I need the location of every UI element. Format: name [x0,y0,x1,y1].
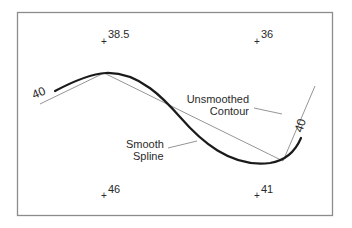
diagram-frame [18,13,333,216]
smooth-callout-line2: Spline [133,150,164,162]
contour-label-left: 40 [30,84,48,102]
plus-marker-icon: + [101,190,107,201]
smooth-leader-line [168,141,197,148]
spot-height-38-5: + 38.5 [101,28,129,47]
plus-marker-icon: + [101,36,107,47]
unsmoothed-callout-line1: Unsmoothed [187,93,249,105]
spot-height-value: 36 [261,28,273,40]
smooth-spline-curve [55,73,301,164]
unsmoothed-contour-line [40,73,315,161]
unsmoothed-callout-line2: Contour [210,105,249,117]
plus-marker-icon: + [254,190,260,201]
spot-height-value: 46 [108,183,120,195]
spot-height-46: + 46 [101,183,120,201]
spot-height-36: + 36 [254,28,273,47]
contour-diagram: 40 40 Unsmoothed Contour Smooth Spline +… [0,0,352,228]
smooth-callout-line1: Smooth [126,138,164,150]
spot-height-41: + 41 [254,183,273,201]
spot-height-value: 41 [261,183,273,195]
plus-marker-icon: + [254,36,260,47]
contour-label-right: 40 [292,117,310,134]
unsmoothed-leader-line [254,108,282,114]
spot-height-value: 38.5 [108,28,129,40]
